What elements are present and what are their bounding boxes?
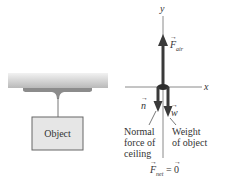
net-force-symbol: F — [150, 164, 156, 175]
ceiling — [8, 73, 108, 88]
weight-leader-line — [170, 118, 176, 125]
f-air-arrow — [158, 34, 168, 86]
w-symbol: w — [171, 107, 178, 118]
normal-leader-line — [149, 111, 156, 125]
object-label: Object — [32, 117, 83, 150]
f-air-subscript: air — [176, 46, 183, 52]
x-axis-label: x — [204, 81, 208, 92]
free-body-diagram — [0, 0, 225, 188]
f-air-symbol: F — [170, 39, 176, 50]
normal-force-arrow — [154, 87, 163, 112]
zero-vector: 0 — [174, 164, 179, 175]
f-air-label: Fair — [170, 39, 183, 55]
equals-sign: = — [166, 164, 172, 175]
hanger-bracket — [23, 88, 92, 99]
net-force-equation: Fnet = 0 — [150, 164, 179, 180]
n-label: n — [141, 100, 146, 111]
net-force-subscript: net — [156, 171, 163, 177]
y-axis-label: y — [160, 3, 164, 14]
normal-force-caption: Normal force of ceiling — [124, 126, 155, 159]
n-symbol: n — [141, 100, 146, 111]
weight-caption: Weight of object — [172, 126, 207, 148]
w-label: w — [171, 107, 178, 118]
